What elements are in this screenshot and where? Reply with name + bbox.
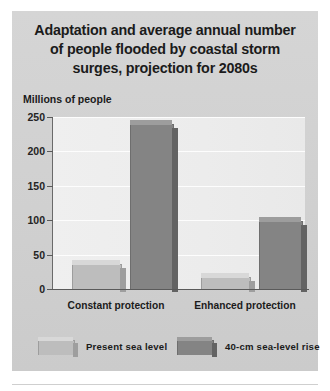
y-tick-mark-0 <box>47 289 53 290</box>
gridline-150 <box>53 186 305 187</box>
y-tick-mark-150 <box>47 186 53 187</box>
bar-side-face <box>172 128 178 292</box>
bar-top-face <box>72 260 120 265</box>
x-axis-line <box>47 289 309 290</box>
y-tick-label-250: 250 <box>1 111 45 123</box>
y-tick-label-200: 200 <box>1 145 45 157</box>
plot-area <box>53 117 305 289</box>
footer-divider <box>12 384 318 385</box>
bar-face <box>130 124 174 289</box>
swatch-top-face <box>38 337 73 341</box>
swatch-side-face <box>73 343 78 357</box>
y-tick-label-150: 150 <box>1 180 45 192</box>
bar-face <box>72 264 122 289</box>
bar-top-face <box>201 273 249 278</box>
bar-top-face <box>259 217 301 222</box>
swatch-side-face <box>212 343 217 357</box>
swatch-top-face <box>177 337 212 341</box>
y-tick-label-50: 50 <box>1 249 45 261</box>
bar-top-face <box>130 120 172 125</box>
bar-enhanced-protection-present-sea-level <box>201 278 249 289</box>
x-axis-category-constant-protection: Constant protection <box>53 300 179 311</box>
x-axis-category-enhanced-protection: Enhanced protection <box>182 300 308 311</box>
gridline-200 <box>53 151 305 152</box>
y-axis-line <box>52 117 53 290</box>
y-tick-mark-200 <box>47 151 53 152</box>
bar-face <box>201 277 251 289</box>
y-tick-label-100: 100 <box>1 214 45 226</box>
chart-title-line-1: Adaptation and average annual number <box>20 21 310 40</box>
y-axis-tick-labels: 250 200 150 100 50 0 <box>0 0 45 391</box>
legend-swatch-present-sea-level <box>38 341 73 355</box>
gridline-250 <box>53 117 305 118</box>
chart-figure: Adaptation and average annual number of … <box>0 0 330 391</box>
legend-label-40cm-sea-level-rise: 40-cm sea-level rise <box>225 341 320 352</box>
y-tick-mark-50 <box>47 255 53 256</box>
bar-enhanced-protection-40cm-rise <box>259 222 301 289</box>
bar-side-face <box>301 225 307 292</box>
bar-side-face <box>249 281 255 292</box>
y-tick-label-0: 0 <box>1 283 45 295</box>
bar-constant-protection-present-sea-level <box>72 265 120 289</box>
bar-constant-protection-40cm-rise <box>130 125 172 289</box>
swatch-face <box>177 340 214 355</box>
legend-label-present-sea-level: Present sea level <box>86 341 167 352</box>
chart-legend: Present sea level 40-cm sea-level rise <box>12 338 318 368</box>
swatch-face <box>38 340 75 355</box>
y-tick-mark-100 <box>47 220 53 221</box>
chart-title-line-3: surges, projection for 2080s <box>20 59 310 78</box>
y-tick-mark-250 <box>47 117 53 118</box>
chart-title-line-2: of people flooded by coastal storm <box>20 40 310 59</box>
legend-swatch-40cm-sea-level-rise <box>177 341 212 355</box>
bar-face <box>259 221 303 289</box>
chart-title: Adaptation and average annual number of … <box>20 21 310 78</box>
